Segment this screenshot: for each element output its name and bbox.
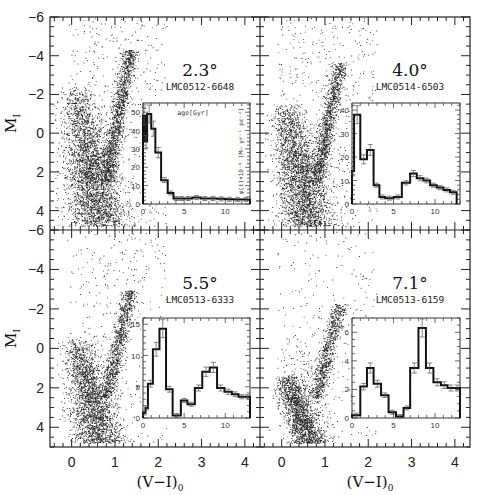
y-tick-label: 0 <box>36 340 44 356</box>
inset-y-tick: 30 <box>340 130 349 139</box>
y-tick-label: −2 <box>28 301 44 317</box>
inset-y-tick: 10 <box>131 352 140 361</box>
x-tick-label: 2 <box>154 454 162 470</box>
x-tick-label: 0 <box>278 454 286 470</box>
inset-x-tick: 0 <box>141 421 146 430</box>
inset-x-axis-label: age[Gyr] <box>177 109 208 117</box>
y-tick-label: 2 <box>36 380 44 396</box>
inset-x-tick: 10 <box>221 207 230 216</box>
y-tick-label: 0 <box>36 125 44 141</box>
panel-angle: 7.1° <box>392 273 428 293</box>
inset-x-tick: 5 <box>182 421 187 430</box>
inset-y-tick: 6 <box>345 328 350 337</box>
x-tick-label: 4 <box>451 454 459 470</box>
y-tick-label: −6 <box>28 222 44 238</box>
inset-x-tick: 5 <box>182 207 187 216</box>
y-tick-label: −4 <box>28 261 44 277</box>
x-tick-label: 1 <box>111 454 119 470</box>
panel-field-name: LMC0513-6159 <box>376 294 445 305</box>
inset-x-tick: 0 <box>141 207 146 216</box>
inset-x-tick: 0 <box>350 421 355 430</box>
inset-y-tick: 10 <box>340 177 349 186</box>
y-tick-label: 4 <box>36 203 44 219</box>
inset-x-tick: 10 <box>431 207 440 216</box>
x-tick-label: 1 <box>321 454 329 470</box>
inset-y-tick: 15 <box>131 320 140 329</box>
x-tick-label: 4 <box>241 454 249 470</box>
inset-x-tick: 5 <box>391 207 396 216</box>
inset-y-tick: 5 <box>136 383 141 392</box>
y-tick-label: 2 <box>36 164 44 180</box>
inset-y-tick: 40 <box>340 106 349 115</box>
x-tick-label: 2 <box>364 454 372 470</box>
inset-y-tick: 4 <box>345 357 350 366</box>
sfh-inset-2: 0102030400510 <box>340 103 460 216</box>
y-tick-label: 4 <box>36 419 44 435</box>
y-tick-label: −4 <box>28 48 44 64</box>
inset-y-tick: 2 <box>345 385 350 394</box>
inset-y-tick: 20 <box>131 163 140 172</box>
x-axis-label: (V−I)0 <box>137 473 184 493</box>
x-tick-label: 0 <box>68 454 76 470</box>
x-axis-label: (V−I)0 <box>347 473 394 493</box>
inset-y-tick: 50 <box>131 108 140 117</box>
panel-angle: 4.0° <box>392 60 428 80</box>
x-tick-label: 3 <box>198 454 206 470</box>
inset-y-tick: 40 <box>131 127 140 136</box>
y-axis-label: MI <box>2 114 22 133</box>
inset-y-axis-label: ψ(t)×10⁻⁸ (M☉ yr⁻¹ pc⁻²) <box>237 108 245 195</box>
inset-x-tick: 10 <box>221 421 230 430</box>
inset-y-tick: 10 <box>131 182 140 191</box>
inset-x-tick: 5 <box>391 421 396 430</box>
y-tick-label: −6 <box>28 9 44 25</box>
svg-text:MI: MI <box>2 114 22 133</box>
panel-field-name: LMC0514-6503 <box>376 81 445 92</box>
x-tick-label: 3 <box>408 454 416 470</box>
panel-angle: 5.5° <box>182 273 218 293</box>
svg-text:ψ(t)×10⁻⁸ (M☉ yr⁻¹ pc⁻²): ψ(t)×10⁻⁸ (M☉ yr⁻¹ pc⁻²) <box>237 108 245 195</box>
inset-y-tick: 20 <box>340 153 349 162</box>
sfh-inset-1: 010203040500510age[Gyr]ψ(t)×10⁻⁸ (M☉ yr⁻… <box>131 103 250 216</box>
inset-y-tick: 30 <box>131 145 140 154</box>
sfh-inset-3: 0510150510 <box>131 318 250 430</box>
figure: −6−4−2024MI−6−4−2024MI01234(V−I)001234(V… <box>0 0 481 495</box>
inset-x-tick: 0 <box>350 207 355 216</box>
panel-field-name: LMC0513-6333 <box>166 294 235 305</box>
panel-field-name: LMC0512-6648 <box>166 81 235 92</box>
panel-angle: 2.3° <box>182 60 218 80</box>
inset-x-tick: 10 <box>431 421 440 430</box>
y-axis-label: MI <box>2 329 22 348</box>
svg-text:MI: MI <box>2 329 22 348</box>
y-tick-label: −2 <box>28 86 44 102</box>
sfh-inset-4: 02460510 <box>345 318 460 430</box>
